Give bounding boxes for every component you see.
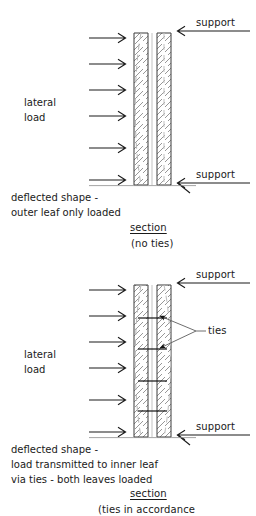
- bottom-lateral-load-line2: load: [24, 362, 56, 377]
- top-support-label-upper: support: [196, 16, 235, 29]
- top-caption-title: section: [130, 221, 167, 234]
- bottom-load-arrows: [89, 285, 126, 437]
- bottom-lateral-load-line1: lateral: [24, 347, 56, 362]
- top-deflected-note-line2: outer leaf only loaded: [11, 205, 121, 220]
- top-caption-sub: (no ties): [131, 237, 173, 250]
- top-deflected-note-line1: deflected shape -: [11, 190, 121, 205]
- bottom-caption-sub: (ties in accordance: [98, 503, 195, 516]
- bottom-caption-title: section: [130, 487, 167, 500]
- bottom-outer-leaf: [134, 285, 148, 437]
- bottom-inner-leaf: [157, 285, 171, 437]
- top-lateral-load-line2: load: [24, 110, 56, 125]
- bottom-deflected-note-line2: load transmitted to inner leaf: [11, 457, 158, 472]
- bottom-support-label-lower: support: [196, 420, 235, 433]
- top-load-arrows: [89, 33, 126, 185]
- bottom-support-label-upper: support: [196, 268, 235, 281]
- bottom-lateral-load-label: lateral load: [24, 347, 56, 377]
- bottom-deflected-note: deflected shape - load transmitted to in…: [11, 442, 158, 487]
- top-lateral-load-label: lateral load: [24, 95, 56, 125]
- ties-label: ties: [208, 324, 226, 337]
- top-deflected-note: deflected shape - outer leaf only loaded: [11, 190, 121, 220]
- top-outer-leaf: [134, 33, 148, 185]
- top-lateral-load-line1: lateral: [24, 95, 56, 110]
- top-support-label-lower: support: [196, 168, 235, 181]
- bottom-deflected-note-line1: deflected shape -: [11, 442, 158, 457]
- bottom-deflected-note-line3: via ties - both leaves loaded: [11, 472, 158, 487]
